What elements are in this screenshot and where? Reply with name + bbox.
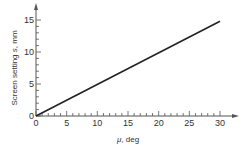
- y-tick-label: 10: [24, 47, 34, 57]
- x-tick-label: 5: [64, 118, 69, 128]
- plot-area: [36, 21, 220, 116]
- x-tick-label: 10: [92, 118, 102, 128]
- chart: 051015 051015202530 Screen setting s, mm…: [0, 0, 244, 146]
- y-axis-arrow-icon: [34, 3, 38, 10]
- x-tick-label: 0: [33, 118, 38, 128]
- x-tick-label: 15: [123, 118, 133, 128]
- x-tick-label: 20: [154, 118, 164, 128]
- x-axis-label: μ, deg: [116, 135, 139, 144]
- y-axis: 051015: [24, 3, 41, 121]
- data-line: [36, 21, 220, 116]
- y-axis-label: Screen setting s, mm: [10, 30, 19, 105]
- y-tick-label: 15: [24, 15, 34, 25]
- x-tick-label: 30: [215, 118, 225, 128]
- x-tick-label: 25: [184, 118, 194, 128]
- x-axis: 051015202530: [33, 111, 239, 128]
- x-axis-arrow-icon: [232, 114, 239, 118]
- y-tick-label: 5: [29, 79, 34, 89]
